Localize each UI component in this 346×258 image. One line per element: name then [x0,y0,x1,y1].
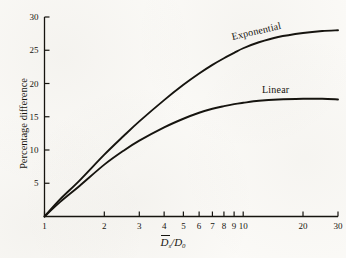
x-tick-label: 7 [210,222,215,231]
figure-container: 51015202530 123456789102030 Percentage d… [0,0,346,258]
series-line-exponential [45,30,339,216]
x-axis-ticks [45,212,339,217]
x-axis-title-numerator-subscript: s [168,242,171,249]
x-axis-title-numerator: Ds [160,236,171,248]
x-tick-label: 3 [137,222,142,231]
x-tick-label: 20 [299,222,308,231]
x-axis-title-denominator-subscript: 0 [182,242,185,249]
x-tick-label: 5 [181,222,186,231]
x-tick-label: 1 [42,222,47,231]
x-tick-label: 8 [222,222,227,231]
plot-area [0,0,346,258]
y-axis-title: Percentage difference [18,54,29,194]
curve-label-linear: Linear [262,84,289,95]
series-line-linear [45,99,339,217]
x-tick-label: 10 [239,222,248,231]
y-tick-label: 30 [11,13,39,22]
x-tick-label: 2 [102,222,107,231]
axes [44,17,338,217]
x-axis-title: Ds/D0 [0,236,346,248]
x-axis-title-denominator-symbol: D [174,236,182,248]
y-axis-ticks [45,17,50,183]
x-tick-label: 30 [334,222,343,231]
x-tick-label: 9 [232,222,237,231]
x-tick-label: 6 [197,222,202,231]
x-tick-label: 4 [162,222,167,231]
